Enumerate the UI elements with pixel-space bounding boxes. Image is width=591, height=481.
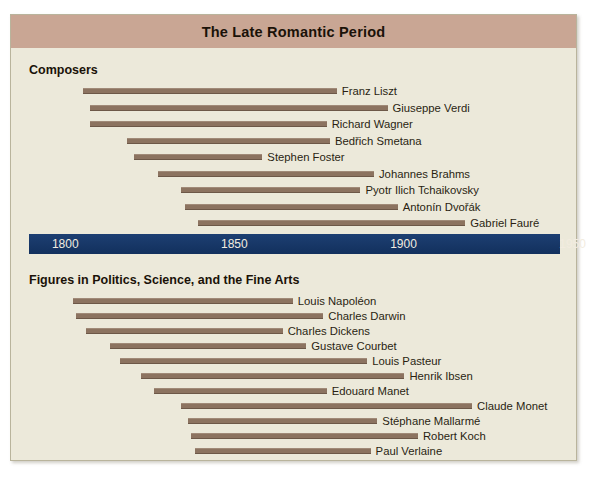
lifespan-bar	[134, 154, 263, 160]
title-banner: The Late Romantic Period	[11, 15, 576, 48]
bar-label: Stéphane Mallarmé	[382, 413, 480, 429]
lifespan-bar	[154, 388, 326, 394]
timeline-row: Louis Napoléon	[11, 293, 576, 309]
timeline-row: Gabriel Fauré	[11, 215, 576, 231]
lifespan-bar	[198, 220, 465, 226]
bar-label: Franz Liszt	[342, 83, 397, 99]
lifespan-bar	[83, 88, 337, 94]
lifespan-bar	[86, 328, 282, 334]
lifespan-bar	[181, 403, 472, 409]
lifespan-bar	[191, 433, 418, 439]
bar-label: Gustave Courbet	[311, 338, 396, 354]
lifespan-bar	[120, 358, 367, 364]
lifespan-bar	[141, 373, 405, 379]
timeline-row: Claude Monet	[11, 398, 576, 414]
timeline-row: Louis Pasteur	[11, 353, 576, 369]
timeline-row: Stéphane Mallarmé	[11, 413, 576, 429]
lifespan-bar	[181, 187, 360, 193]
timeline-row: Edouard Manet	[11, 383, 576, 399]
timeline-row: Pyotr Ilich Tchaikovsky	[11, 182, 576, 198]
timeline-row: Gustave Courbet	[11, 338, 576, 354]
composers-timeline-plot: Franz LisztGiuseppe VerdiRichard WagnerB…	[11, 83, 576, 228]
timeline-row: Stephen Foster	[11, 149, 576, 165]
timeline-row: Charles Dickens	[11, 323, 576, 339]
lifespan-bar	[158, 171, 374, 177]
lifespan-bar	[185, 204, 398, 210]
bar-label: Louis Pasteur	[372, 353, 441, 369]
bar-label: Louis Napoléon	[298, 293, 377, 309]
bar-label: Edouard Manet	[332, 383, 409, 399]
section-heading-composers: Composers	[29, 63, 98, 77]
timeline-figure: The Late Romantic Period Composers Franz…	[10, 14, 577, 461]
lifespan-bar	[90, 121, 327, 127]
page-title: The Late Romantic Period	[202, 24, 386, 40]
timeline-row: Charles Darwin	[11, 308, 576, 324]
lifespan-bar	[76, 313, 323, 319]
axis-tick-1850: 1850	[221, 234, 248, 254]
lifespan-bar	[127, 138, 330, 144]
bar-label: Giuseppe Verdi	[393, 100, 470, 116]
timeline-row: Paul Verlaine	[11, 443, 576, 459]
timeline-row: Richard Wagner	[11, 116, 576, 132]
timeline-row: Henrik Ibsen	[11, 368, 576, 384]
bar-label: Gabriel Fauré	[470, 215, 539, 231]
figures-timeline-plot: Louis NapoléonCharles DarwinCharles Dick…	[11, 293, 576, 458]
bar-label: Bedřich Smetana	[335, 133, 422, 149]
bar-label: Paul Verlaine	[376, 443, 443, 459]
lifespan-bar	[110, 343, 306, 349]
lifespan-bar	[188, 418, 377, 424]
section-heading-figures: Figures in Politics, Science, and the Fi…	[29, 273, 299, 287]
axis-tick-1900: 1900	[390, 234, 417, 254]
lifespan-bar	[195, 448, 371, 454]
timeline-row: Franz Liszt	[11, 83, 576, 99]
timeline-row: Antonín Dvořák	[11, 199, 576, 215]
year-axis: 1800185019001950	[29, 234, 560, 254]
bar-label: Richard Wagner	[332, 116, 413, 132]
bar-label: Claude Monet	[477, 398, 547, 414]
timeline-row: Bedřich Smetana	[11, 133, 576, 149]
timeline-row: Giuseppe Verdi	[11, 100, 576, 116]
bar-label: Pyotr Ilich Tchaikovsky	[365, 182, 478, 198]
bar-label: Charles Darwin	[328, 308, 405, 324]
timeline-row: Johannes Brahms	[11, 166, 576, 182]
bar-label: Antonín Dvořák	[403, 199, 481, 215]
lifespan-bar	[73, 298, 293, 304]
bar-label: Robert Koch	[423, 428, 486, 444]
bar-label: Johannes Brahms	[379, 166, 470, 182]
bar-label: Stephen Foster	[267, 149, 344, 165]
lifespan-bar	[90, 105, 388, 111]
timeline-row: Robert Koch	[11, 428, 576, 444]
bar-label: Charles Dickens	[288, 323, 370, 339]
axis-tick-1950: 1950	[559, 234, 586, 254]
bar-label: Henrik Ibsen	[409, 368, 472, 384]
axis-tick-1800: 1800	[52, 234, 79, 254]
